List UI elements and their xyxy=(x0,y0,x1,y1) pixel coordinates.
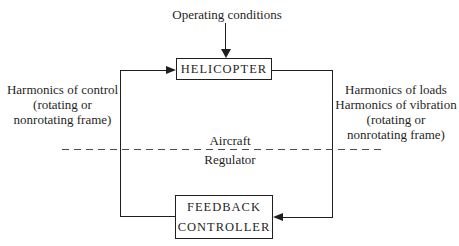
aircraft-label: Aircraft xyxy=(209,133,250,148)
feedback-label-line1: FEEDBACK xyxy=(187,197,261,217)
connector-operating-conditions-vertical xyxy=(225,23,226,50)
harmonics-of-loads-line3: (rotating or xyxy=(334,112,458,127)
harmonics-of-loads-line4: nonrotating frame) xyxy=(334,127,458,142)
connector-right-bottom-horizontal xyxy=(283,217,333,218)
connector-left-bottom-horizontal xyxy=(120,216,175,217)
harmonics-of-loads-line2: Harmonics of vibration xyxy=(334,97,458,112)
helicopter-control-block-diagram: Operating conditions HELICOPTER FEEDBACK… xyxy=(0,0,459,246)
helicopter-box: HELICOPTER xyxy=(176,58,272,80)
harmonics-of-control-line1: Harmonics of control xyxy=(5,82,120,97)
feedback-controller-box: FEEDBACK CONTROLLER xyxy=(175,195,273,239)
arrowhead-down-icon xyxy=(221,49,231,58)
feedback-label-line2: CONTROLLER xyxy=(178,217,271,237)
harmonics-of-loads-line1: Harmonics of loads xyxy=(334,82,458,97)
harmonics-of-control-label: Harmonics of control (rotating or nonrot… xyxy=(5,82,120,127)
connector-right-top-horizontal xyxy=(272,70,333,71)
aircraft-regulator-divider xyxy=(62,149,385,150)
operating-conditions-label: Operating conditions xyxy=(172,7,281,22)
connector-left-vertical xyxy=(120,70,121,217)
connector-right-vertical xyxy=(332,70,333,218)
arrowhead-right-icon xyxy=(166,66,176,74)
connector-left-top-horizontal xyxy=(120,70,167,71)
regulator-label: Regulator xyxy=(204,152,255,167)
arrowhead-left-icon xyxy=(273,213,283,221)
helicopter-label: HELICOPTER xyxy=(181,62,267,77)
harmonics-of-loads-label: Harmonics of loads Harmonics of vibratio… xyxy=(334,82,458,142)
harmonics-of-control-line2: (rotating or xyxy=(5,97,120,112)
harmonics-of-control-line3: nonrotating frame) xyxy=(5,112,120,127)
